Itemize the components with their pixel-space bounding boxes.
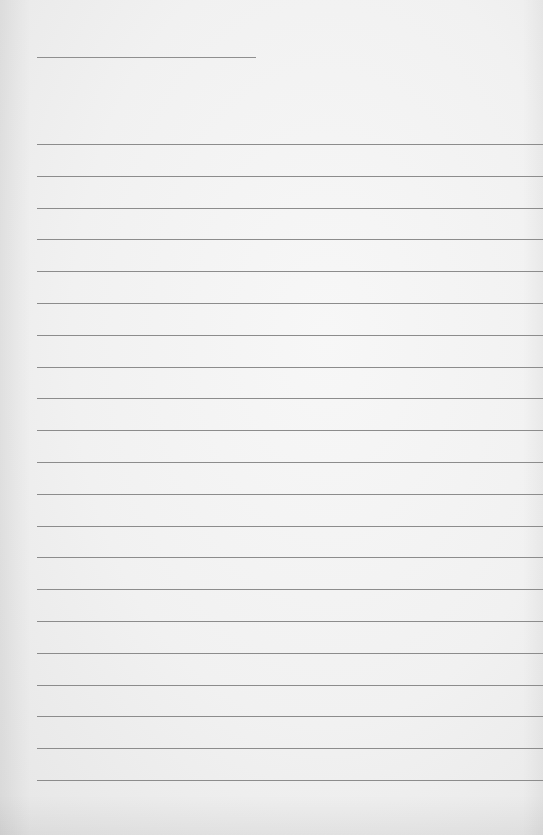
ruled-line	[37, 748, 543, 749]
lined-paper	[0, 0, 543, 835]
ruled-line	[37, 239, 543, 240]
ruled-line	[37, 462, 543, 463]
ruled-line	[37, 208, 543, 209]
ruled-line	[37, 144, 543, 145]
ruled-line	[37, 589, 543, 590]
ruled-line	[37, 271, 543, 272]
ruled-line	[37, 494, 543, 495]
ruled-line	[37, 653, 543, 654]
title-underline	[37, 57, 256, 58]
ruled-line	[37, 430, 543, 431]
ruled-line	[37, 335, 543, 336]
ruled-line	[37, 303, 543, 304]
ruled-line	[37, 398, 543, 399]
ruled-line	[37, 685, 543, 686]
ruled-line	[37, 780, 543, 781]
ruled-line	[37, 716, 543, 717]
ruled-line	[37, 557, 543, 558]
ruled-line	[37, 526, 543, 527]
ruled-line	[37, 176, 543, 177]
ruled-line	[37, 621, 543, 622]
ruled-line	[37, 367, 543, 368]
